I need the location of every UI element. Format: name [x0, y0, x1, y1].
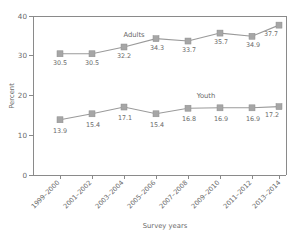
youth-point-label-5: 16.9: [214, 115, 228, 123]
youth-point-label-0: 13.9: [53, 127, 67, 135]
adults-marker-0: [57, 51, 63, 57]
y-tick-label-0: 0: [22, 171, 27, 180]
x-tick-label-4: 2007–2008: [158, 179, 190, 211]
youth-marker-7: [276, 104, 282, 110]
y-tick-label-10: 10: [18, 131, 28, 140]
adults-series-label: Adults: [123, 31, 145, 39]
adults-marker-6: [249, 33, 255, 39]
youth-point-label-6: 16.9: [246, 115, 260, 123]
adults-point-label-6: 34.9: [246, 41, 260, 49]
youth-series-label: Youth: [196, 92, 216, 100]
adults-point-label-4: 33.7: [182, 46, 196, 54]
x-tick-label-2: 2003–2004: [94, 179, 126, 211]
adults-point-label-2: 32.2: [117, 52, 131, 60]
axes-frame: [33, 16, 286, 175]
adults-marker-1: [89, 51, 95, 57]
youth-marker-0: [57, 117, 63, 123]
youth-marker-2: [121, 104, 127, 110]
x-tick-label-7: 2013–2014: [251, 179, 283, 211]
adults-point-label-7: 37.7: [264, 30, 278, 38]
youth-point-label-1: 15.4: [86, 121, 100, 129]
youth-marker-3: [153, 111, 159, 117]
youth-point-label-3: 15.4: [150, 121, 164, 129]
x-tick-label-1: 2001–2002: [62, 179, 94, 211]
chart-container: 0 10 20 30 40 Percent 1999–2000 2001–200…: [0, 0, 301, 237]
x-tick-label-3: 2005–2006: [126, 179, 158, 211]
youth-point-label-4: 16.8: [182, 115, 196, 123]
line-chart: 0 10 20 30 40 Percent 1999–2000 2001–200…: [0, 0, 301, 237]
x-axis-ticks: 1999–2000 2001–2002 2003–2004 2005–2006 …: [30, 175, 283, 210]
adults-marker-5: [217, 30, 223, 36]
adults-marker-3: [153, 36, 159, 42]
x-axis-title: Survey years: [143, 222, 188, 230]
youth-marker-6: [249, 105, 255, 111]
x-tick-label-5: 2009–2010: [190, 179, 222, 211]
adults-point-label-1: 30.5: [85, 59, 99, 67]
series-adults: 30.5 30.5 32.2 34.3 33.7 35.7 34.9 37.7 …: [53, 22, 282, 67]
youth-marker-1: [89, 111, 95, 117]
y-tick-label-40: 40: [18, 12, 28, 21]
adults-marker-4: [185, 38, 191, 44]
youth-point-label-2: 17.1: [118, 114, 132, 122]
adults-marker-7: [276, 22, 282, 28]
adults-point-label-0: 30.5: [53, 59, 67, 67]
youth-marker-4: [185, 105, 191, 111]
y-axis-title: Percent: [8, 83, 16, 109]
x-tick-label-0: 1999–2000: [30, 179, 62, 211]
adults-marker-2: [121, 44, 127, 50]
y-axis-ticks: 0 10 20 30 40: [18, 12, 33, 180]
adults-point-label-5: 35.7: [214, 38, 228, 46]
x-tick-label-6: 2011–2012: [222, 179, 254, 211]
y-tick-label-30: 30: [18, 51, 28, 60]
y-tick-label-20: 20: [18, 91, 28, 100]
youth-marker-5: [217, 105, 223, 111]
youth-point-label-7: 17.2: [265, 111, 279, 119]
adults-point-label-3: 34.3: [150, 44, 164, 52]
series-youth: 13.9 15.4 17.1 15.4 16.8 16.9 16.9 17.2 …: [53, 92, 282, 135]
adults-line: [60, 25, 279, 54]
